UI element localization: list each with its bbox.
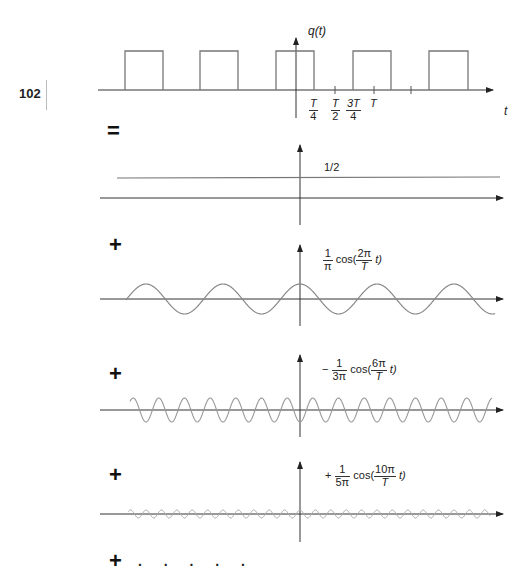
tick-label-3T-4: 3T4 — [346, 98, 361, 122]
margin-divider — [46, 80, 47, 110]
h3-formula: − 13π cos(6πT t) — [322, 358, 397, 382]
square-wave-panel — [98, 38, 493, 118]
plus-sign-1: + — [109, 234, 122, 256]
dc-value-label: 1/2 — [324, 161, 339, 173]
tick-label-T: T — [370, 97, 377, 109]
plus-sign-4: + — [109, 550, 122, 572]
continuation-dots: . . . . . — [138, 553, 254, 569]
t-axis-label: t — [504, 104, 507, 118]
harmonic-3-panel — [100, 355, 503, 437]
harmonic-5-panel — [100, 462, 503, 542]
tick-label-T-4: T4 — [309, 98, 318, 122]
q-axis-label: q(t) — [308, 24, 326, 38]
harmonic-1-panel — [100, 245, 503, 326]
equals-sign: = — [107, 120, 120, 142]
fourier-series-figure — [0, 0, 531, 585]
dc-panel — [100, 145, 503, 225]
plus-sign-3: + — [109, 464, 122, 486]
tick-label-T-2: T2 — [331, 98, 340, 122]
h5-formula: + 15π cos(10πT t) — [325, 464, 406, 488]
plus-sign-2: + — [109, 363, 122, 385]
dc-level-line — [117, 177, 500, 178]
h1-formula: 1π cos(2πT t) — [323, 248, 382, 272]
page-number: 102 — [19, 86, 41, 101]
